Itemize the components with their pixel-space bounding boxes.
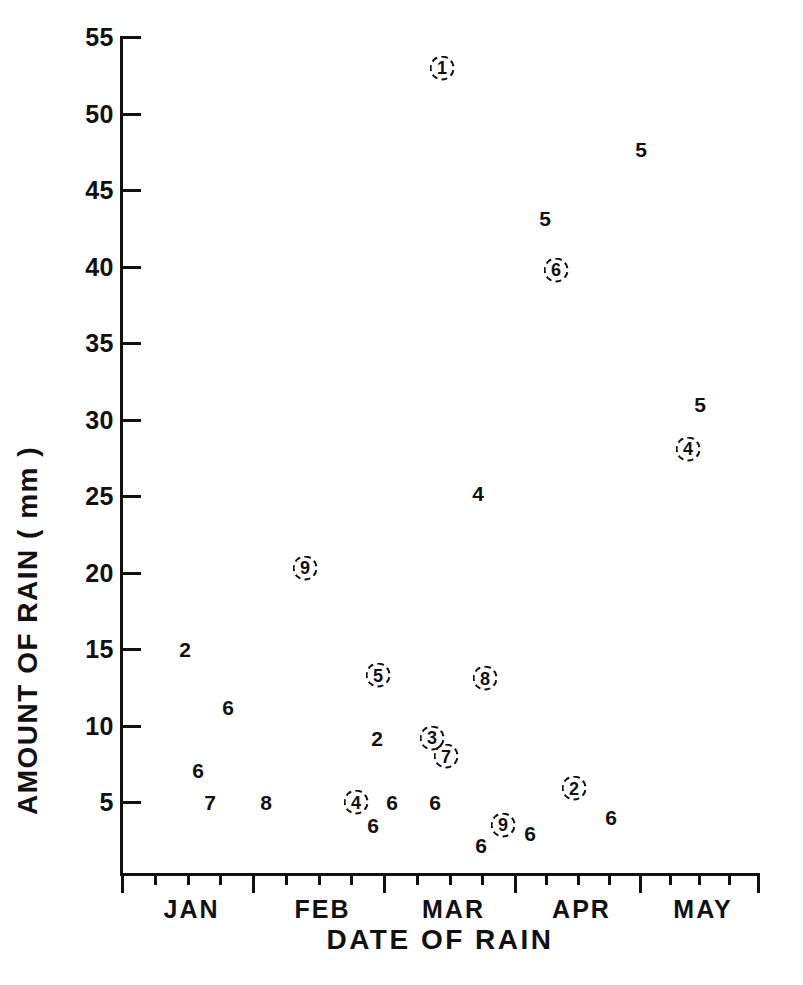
x-axis-minor-tick [318,873,321,885]
y-axis-tick-label: 30 [85,405,114,434]
y-axis-tick-label: 10 [85,711,114,740]
data-point: 6 [524,822,536,843]
y-axis-tick [122,725,141,728]
data-point: 4 [472,482,484,503]
x-axis-minor-tick [219,873,222,885]
x-axis-major-tick [757,873,760,893]
x-axis-minor-tick [449,873,452,885]
x-axis-minor-tick [187,873,190,885]
data-point-circled: 7 [434,744,459,769]
y-axis-tick-label: 50 [85,99,114,128]
data-point: 6 [367,814,379,835]
x-axis-tick-label: MAR [422,895,485,924]
x-axis-tick-label: JAN [163,895,219,924]
y-axis-tick [122,266,141,269]
x-axis-tick-label: APR [552,895,611,924]
x-axis-title: DATE OF RAIN [326,924,553,956]
x-axis-minor-tick [728,873,731,885]
y-axis-tick-label: 35 [85,329,114,358]
x-axis-minor-tick [577,873,580,885]
y-axis-tick-label: 15 [85,635,114,664]
y-axis-tick-label: 40 [85,252,114,281]
x-axis-minor-tick [608,873,611,885]
data-point: 6 [475,834,487,855]
data-point-circled: 6 [544,257,569,282]
y-axis-tick-label: 20 [85,558,114,587]
data-point: 2 [179,639,191,660]
data-point-circled: 9 [293,555,318,580]
y-axis-tick [122,189,141,192]
data-point-circled: 9 [491,812,516,837]
y-axis-tick [122,419,141,422]
data-point-circled: 2 [562,776,587,801]
data-point-circled: 4 [676,436,701,461]
x-axis-major-tick [514,873,517,893]
x-axis-minor-tick [285,873,288,885]
data-point: 6 [386,792,398,813]
x-axis-minor-tick [481,873,484,885]
x-axis-minor-tick [154,873,157,885]
data-point: 6 [429,792,441,813]
y-axis-tick [122,801,141,804]
x-axis-tick-label: FEB [295,895,351,924]
x-axis-minor-tick [350,873,353,885]
y-axis-tick [122,495,141,498]
data-point-circled: 4 [344,790,369,815]
data-point: 2 [371,727,383,748]
x-axis-minor-tick [669,873,672,885]
data-point-circled: 1 [430,55,455,80]
data-point: 5 [694,394,706,415]
y-axis-tick [122,36,141,39]
y-axis-tick-label: 5 [100,788,114,817]
x-axis-major-tick [639,873,642,893]
y-axis-tick-label: 25 [85,482,114,511]
x-axis-minor-tick [698,873,701,885]
y-axis-tick [122,572,141,575]
data-point: 7 [204,792,216,813]
y-axis-tick-label: 45 [85,176,114,205]
x-axis-tick-label: MAY [673,895,732,924]
y-axis-tick [122,342,141,345]
data-point-circled: 5 [366,663,391,688]
data-point: 5 [635,138,647,159]
data-point-circled: 8 [473,666,498,691]
y-axis-tick [122,648,141,651]
data-point: 6 [192,759,204,780]
y-axis-title: AMOUNT OF RAIN ( mm ) [12,446,44,815]
x-axis-major-tick [383,873,386,893]
scatter-plot-figure: 555045403530252015105 JANFEBMARAPRMAY 26… [0,0,803,985]
x-axis-line [120,873,760,876]
x-axis-major-tick [252,873,255,893]
data-point: 6 [222,697,234,718]
x-axis-major-tick [121,873,124,893]
x-axis-minor-tick [416,873,419,885]
data-point: 8 [260,792,272,813]
x-axis-minor-tick [545,873,548,885]
y-axis-tick-label: 55 [85,23,114,52]
data-point: 5 [539,207,551,228]
data-point: 6 [605,807,617,828]
y-axis-line [120,36,123,876]
y-axis-tick [122,113,141,116]
